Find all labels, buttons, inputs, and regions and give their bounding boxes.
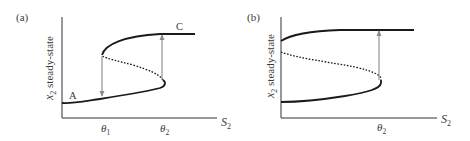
panel-a-label: (a) [16,11,29,24]
panel-b-upper-stable-branch [281,30,414,41]
panel-a-lower-stable-branch [62,80,165,103]
panel-b-tick-theta2: θ2 [377,121,386,136]
panel-b-y-axis-label: x2 steady-state [263,34,279,99]
panel-b-label: (b) [247,11,260,24]
panel-a-point-C: C [176,21,183,32]
panel-a-unstable-branch [102,56,163,80]
panel-a-upper-stable-branch [102,34,195,55]
panel-a-y-axis-label: x2 steady-state [42,36,58,101]
panel-a-point-A: A [69,90,77,101]
panel-b-unstable-branch [281,52,381,80]
panel-a-tick-theta1: θ1 [101,122,110,137]
panel-b-lower-stable-branch [281,80,381,102]
panel-b-axes [281,17,437,118]
panel-a: (a) x2 steady-state S2 θ1 θ2 A C [16,11,231,137]
panel-b: (b) x2 steady-state S2 θ2 [247,11,451,136]
panel-a-axes [62,17,217,118]
panel-a-tick-theta2: θ2 [160,122,169,137]
panel-b-x-axis-label: S2 [441,112,451,128]
bistability-diagram: (a) x2 steady-state S2 θ1 θ2 A C (b) x2 … [0,0,470,141]
panel-a-x-axis-label: S2 [221,115,231,131]
